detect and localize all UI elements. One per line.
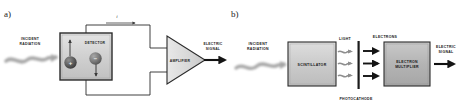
panel-b-electric-signal-label-line1: ELECTRIC xyxy=(436,45,456,49)
panel-b-incident-radiation-label-line2: RADIATION xyxy=(247,47,269,51)
photocathode-bar xyxy=(358,41,360,89)
detector-schematic-figure: a) INCIDENT RADIATION DETECTOR + − xyxy=(0,0,468,109)
positive-charge-particle: + xyxy=(64,56,76,68)
panel-a-incident-radiation-label-line1: INCIDENT xyxy=(21,37,40,41)
detector-label: DETECTOR xyxy=(85,41,106,45)
figure-canvas: a) INCIDENT RADIATION DETECTOR + − xyxy=(0,0,468,109)
amplifier-label: AMPLIFIER xyxy=(170,59,191,63)
electron-multiplier-box xyxy=(384,42,430,86)
panel-a-electric-signal-label-line1: ELECTRIC xyxy=(204,42,223,46)
scintillator-label: SCINTILLATOR xyxy=(298,63,327,67)
photocathode-label: PHOTOCATHODE xyxy=(339,97,372,101)
negative-charge-particle: − xyxy=(89,52,101,64)
negative-charge-sign: − xyxy=(94,56,98,62)
panel-a-electric-signal-label-line2: SIGNAL xyxy=(206,47,220,51)
light-label: LIGHT xyxy=(339,37,352,41)
panel-a-label: a) xyxy=(4,9,11,19)
panel-a-incident-radiation-label-line2: RADIATION xyxy=(20,42,41,46)
electron-multiplier-label-line2: MULTIPLIER xyxy=(395,65,419,69)
electrons-label: ELECTRONS xyxy=(373,35,398,39)
electron-multiplier-label-line1: ELECTRON xyxy=(396,60,418,64)
positive-charge-sign: + xyxy=(69,60,73,66)
panel-b-incident-radiation-label-line1: INCIDENT xyxy=(249,42,268,46)
panel-b-electric-signal-label-line2: SIGNAL xyxy=(438,50,454,54)
panel-b-label: b) xyxy=(231,9,239,19)
